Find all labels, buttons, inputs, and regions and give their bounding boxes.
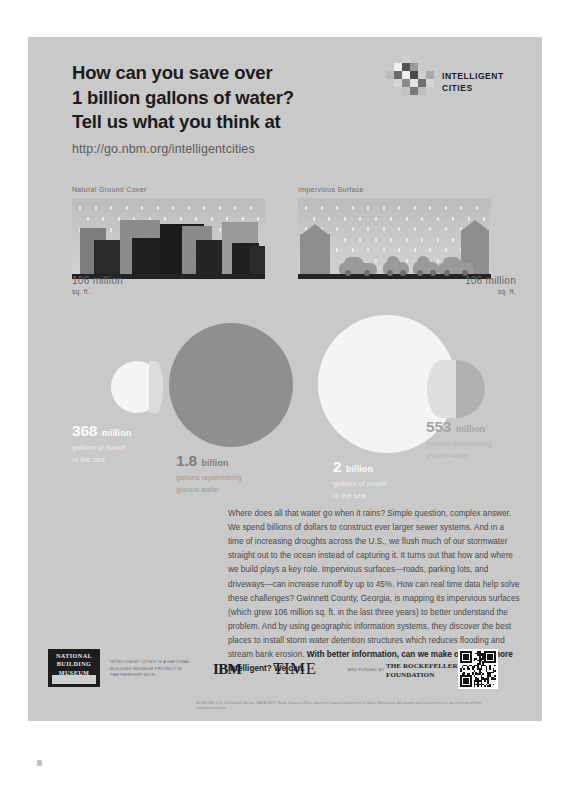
- rain-drop: [429, 227, 431, 231]
- label-sub-1: gallons replenishing: [176, 474, 242, 483]
- qr-module: [489, 685, 491, 687]
- rain-drop: [226, 217, 228, 221]
- qr-module: [482, 658, 484, 660]
- brand-line-1: INTELLIGENT: [442, 70, 504, 82]
- pixel-grid-icon: [386, 63, 432, 105]
- rain-drop: [476, 206, 478, 210]
- rain-drop: [242, 217, 244, 221]
- label-value: 1.8: [176, 452, 197, 469]
- circle-overlap-left: [149, 361, 163, 413]
- ibm-logo: IBM: [213, 661, 242, 678]
- logo-pixel: [426, 79, 434, 87]
- logo-pixel: [402, 87, 410, 95]
- scene-title: Impervious Surface: [298, 186, 491, 193]
- brand-name: INTELLIGENT CITIES: [442, 70, 504, 94]
- stat-unit: sq. ft.: [72, 288, 123, 295]
- rain-drop: [110, 206, 112, 210]
- tree-icon: [250, 246, 265, 274]
- logo-pixel: [418, 87, 426, 95]
- qr-module: [463, 673, 465, 675]
- rockefeller-line-1: THE ROCKEFELLER: [386, 662, 458, 671]
- qr-module: [474, 685, 476, 687]
- rain-drop: [452, 217, 454, 221]
- logo-pixel: [402, 79, 410, 87]
- rain-drop: [344, 217, 346, 221]
- rain-drop: [126, 206, 128, 210]
- label-sub-2: ground water: [176, 486, 242, 495]
- rain-drop: [344, 238, 346, 242]
- rain-drop: [460, 206, 462, 210]
- rain-drop: [375, 217, 377, 221]
- rain-drop: [157, 206, 159, 210]
- qr-module: [481, 668, 483, 670]
- logo-pixel: [410, 87, 418, 95]
- runoff-diagram: 368 million gallons of runoff to the sea…: [28, 299, 542, 499]
- logo-pixel: [386, 71, 394, 79]
- scene-illustration-street: [298, 198, 491, 279]
- rain-drop: [305, 206, 307, 210]
- survey-url[interactable]: http://go.nbm.org/intelligentcities: [72, 142, 255, 156]
- qr-module: [494, 661, 496, 663]
- headline-line: How can you save over: [72, 61, 372, 86]
- rain-drop: [203, 206, 205, 210]
- rain-drop: [437, 259, 439, 263]
- rain-drop: [336, 227, 338, 231]
- label-groundwater-impervious: 553 million gallons replenishing ground …: [426, 417, 492, 461]
- rain-drop: [383, 248, 385, 252]
- rain-drop: [352, 248, 354, 252]
- qr-module: [482, 673, 484, 675]
- rain-drop: [390, 238, 392, 242]
- qr-module: [481, 685, 483, 687]
- stat-area-right: 106 million sq. ft.: [465, 275, 516, 295]
- rain-drop: [141, 206, 143, 210]
- circle-overlap-right: [427, 360, 456, 418]
- qr-module: [484, 680, 486, 682]
- rain-drop: [321, 206, 323, 210]
- qr-module: [494, 675, 496, 677]
- logo-pixel: [394, 71, 402, 79]
- label-unit: million: [456, 424, 486, 434]
- headline-line: 1 billion gallons of water?: [72, 86, 372, 111]
- rain-drop: [110, 228, 112, 232]
- qr-module: [469, 673, 471, 675]
- rain-drop: [367, 227, 369, 231]
- rain-drop: [414, 206, 416, 210]
- rain-drop: [375, 259, 377, 263]
- scene-natural-ground-cover: Natural Ground Cover: [72, 186, 265, 279]
- roof-icon: [462, 220, 488, 230]
- rain-drop: [313, 217, 315, 221]
- qr-module: [494, 665, 496, 667]
- car-icon: [383, 262, 409, 274]
- rain-drop: [336, 248, 338, 252]
- rain-drop: [406, 217, 408, 221]
- headline-line: Tell us what you think at: [72, 110, 372, 135]
- label-sub-2: ground water: [426, 452, 492, 461]
- rain-drop: [414, 248, 416, 252]
- rain-drop: [375, 238, 377, 242]
- rain-drop: [352, 227, 354, 231]
- label-runoff-natural: 368 million gallons of runoff to the sea: [72, 421, 131, 465]
- logo-pixel: [418, 71, 426, 79]
- page-title: How can you save over1 billion gallons o…: [72, 61, 372, 135]
- label-sub-1: gallons replenishing: [426, 440, 492, 449]
- rain-drop: [250, 206, 252, 210]
- rain-drop: [398, 206, 400, 210]
- rain-drop: [445, 206, 447, 210]
- qr-code[interactable]: [458, 649, 498, 689]
- qr-module: [469, 668, 471, 670]
- funded-by-label: And funded by: [348, 667, 385, 672]
- partnership-note: Intelligent Cities is a National Buildin…: [110, 659, 202, 679]
- stat-value: 106 million: [72, 275, 123, 286]
- rain-drop: [437, 238, 439, 242]
- qr-module: [494, 670, 496, 672]
- logo-pixel: [402, 63, 410, 71]
- label-value: 553: [426, 418, 451, 435]
- qr-module: [474, 666, 476, 668]
- label-unit: million: [102, 428, 132, 438]
- rain-drop: [452, 238, 454, 242]
- scene-title: Natural Ground Cover: [72, 186, 265, 193]
- rain-drop: [445, 248, 447, 252]
- poster-canvas: How can you save over1 billion gallons o…: [28, 37, 542, 721]
- rockefeller-foundation-logo: THE ROCKEFELLER FOUNDATION: [386, 662, 458, 680]
- rain-drop: [352, 206, 354, 210]
